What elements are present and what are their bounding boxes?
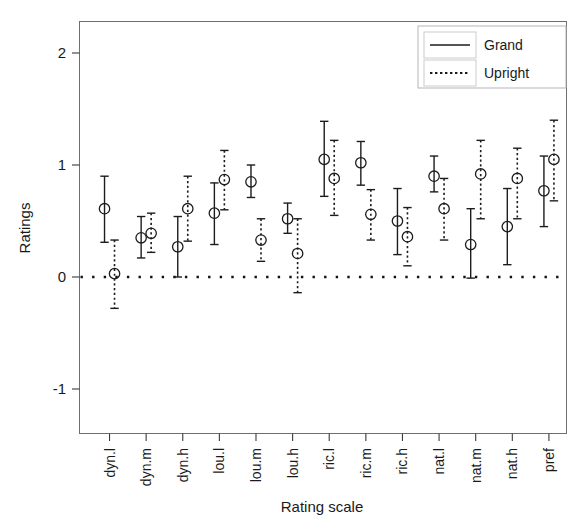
legend-label-upright[interactable]: Upright xyxy=(484,65,529,81)
legend[interactable]: GrandUpright xyxy=(418,26,566,88)
data-marker xyxy=(246,177,256,187)
x-tick-label-dyn-l: dyn.l xyxy=(102,448,118,478)
x-tick-label-nat-h: nat.h xyxy=(504,448,520,479)
data-marker xyxy=(539,186,549,196)
data-marker xyxy=(256,235,266,245)
data-marker xyxy=(439,203,449,213)
data-marker xyxy=(99,203,109,213)
data-marker xyxy=(366,209,376,219)
data-marker xyxy=(173,242,183,252)
data-marker xyxy=(329,173,339,183)
data-marker xyxy=(402,231,412,241)
data-marker xyxy=(219,174,229,184)
data-marker xyxy=(549,154,559,164)
y-tick-label: 2 xyxy=(58,44,66,61)
chart-figure: 210-1 Ratings dyn.ldyn.mdyn.hlou.llou.ml… xyxy=(0,0,587,525)
x-tick-label-ric-l: ric.l xyxy=(321,448,337,470)
y-tick-label: 0 xyxy=(58,268,66,285)
data-marker xyxy=(319,154,329,164)
data-marker xyxy=(429,171,439,181)
data-marker xyxy=(502,221,512,231)
x-tick-label-ric-h: ric.h xyxy=(394,448,410,474)
x-tick-label-lou-m: lou.m xyxy=(248,448,264,482)
x-tick-label-pref: pref xyxy=(541,448,557,472)
x-tick-label-dyn-m: dyn.m xyxy=(138,448,154,486)
data-marker xyxy=(292,248,302,258)
x-axis-title: Rating scale xyxy=(281,498,364,515)
data-marker xyxy=(465,239,475,249)
x-tick-label-dyn-h: dyn.h xyxy=(175,448,191,482)
data-marker xyxy=(356,158,366,168)
x-tick-label-lou-l: lou.l xyxy=(211,448,227,474)
data-marker xyxy=(146,228,156,238)
y-axis-title: Ratings xyxy=(16,203,33,254)
data-marker xyxy=(475,169,485,179)
x-tick-label-ric-m: ric.m xyxy=(358,448,374,478)
y-tick-label: -1 xyxy=(53,380,66,397)
x-tick-label-nat-m: nat.m xyxy=(468,448,484,483)
data-marker xyxy=(183,203,193,213)
ratings-error-bar-chart: 210-1 Ratings dyn.ldyn.mdyn.hlou.llou.ml… xyxy=(0,0,587,525)
x-tick-label-nat-l: nat.l xyxy=(431,448,447,474)
y-tick-label: 1 xyxy=(58,156,66,173)
legend-label-grand[interactable]: Grand xyxy=(484,37,523,53)
x-tick-label-lou-h: lou.h xyxy=(285,448,301,478)
data-marker xyxy=(392,216,402,226)
data-marker xyxy=(282,214,292,224)
data-marker xyxy=(109,268,119,278)
data-marker xyxy=(512,173,522,183)
data-marker xyxy=(209,208,219,218)
data-marker xyxy=(136,233,146,243)
